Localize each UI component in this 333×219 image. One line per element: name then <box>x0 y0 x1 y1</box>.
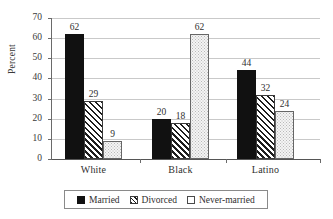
bar-value-label-latino-divorced: 32 <box>251 83 281 93</box>
bar-value-label-black-divorced: 18 <box>166 111 196 121</box>
bar-value-label-white-divorced: 29 <box>79 89 109 99</box>
axis-baseline <box>52 159 320 160</box>
y-tick-label-60: 60 <box>2 33 42 43</box>
y-tick-label-20: 20 <box>2 114 42 124</box>
legend-swatch-icon-never-married <box>187 196 195 204</box>
legend-label-married: Married <box>89 195 120 205</box>
x-tick-mark-0 <box>140 159 141 163</box>
y-tick-label-10: 10 <box>2 134 42 144</box>
gridline-50 <box>52 58 320 59</box>
x-category-label-black: Black <box>136 164 226 175</box>
y-tick-label-70: 70 <box>2 13 42 23</box>
y-tick-label-0: 0 <box>2 154 42 164</box>
bar-white-never-married <box>103 141 122 159</box>
y-tick-label-50: 50 <box>2 53 42 63</box>
legend-item-married: Married <box>77 195 120 205</box>
bar-value-label-white-married: 62 <box>60 22 90 32</box>
gridline-40 <box>52 78 320 79</box>
bar-value-label-latino-married: 44 <box>232 58 262 68</box>
x-category-label-white: White <box>49 164 139 175</box>
legend-swatch-icon-divorced <box>130 196 138 204</box>
bar-chart-figure: Percent 010203040506070 MarriedDivorcedN… <box>0 0 333 219</box>
legend-item-never-married: Never-married <box>187 195 255 205</box>
bar-latino-never-married <box>275 111 294 159</box>
bar-value-label-black-never-married: 62 <box>185 22 215 32</box>
legend-label-never-married: Never-married <box>199 195 255 205</box>
bar-black-divorced <box>171 123 190 159</box>
x-tick-mark-1 <box>226 159 227 163</box>
gridline-70 <box>52 18 320 19</box>
y-axis-tick-labels: 010203040506070 <box>0 18 52 159</box>
bar-black-never-married <box>190 34 209 159</box>
gridline-60 <box>52 38 320 39</box>
chart-legend: MarriedDivorcedNever-married <box>64 190 268 209</box>
bar-black-married <box>152 119 171 159</box>
bar-value-label-white-never-married: 9 <box>98 129 128 139</box>
legend-item-divorced: Divorced <box>130 195 177 205</box>
legend-swatch-icon-married <box>77 196 85 204</box>
x-category-label-latino: Latino <box>221 164 311 175</box>
y-tick-label-30: 30 <box>2 94 42 104</box>
bar-value-label-latino-never-married: 24 <box>270 99 300 109</box>
legend-label-divorced: Divorced <box>142 195 177 205</box>
y-tick-label-40: 40 <box>2 73 42 83</box>
x-tick-mark-2 <box>320 159 321 163</box>
